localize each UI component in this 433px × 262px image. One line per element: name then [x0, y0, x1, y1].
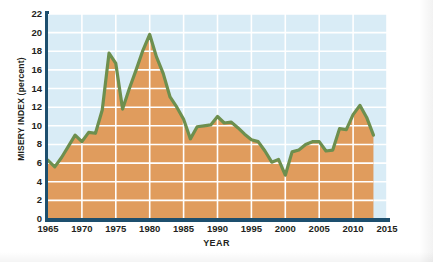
x-axis-spine	[45, 218, 390, 222]
x-axis-title: YEAR	[0, 238, 433, 248]
y-tick-label: 20	[2, 28, 42, 38]
page-edge-shading-right	[419, 0, 433, 262]
chart-plot-svg	[48, 14, 387, 219]
page-edge-shading-bottom	[0, 252, 433, 262]
y-tick-label: 2	[2, 195, 42, 205]
y-tick-label: 4	[2, 177, 42, 187]
y-tick-label: 22	[2, 9, 42, 19]
x-tick-label: 2015	[365, 223, 409, 234]
misery-index-chart-figure: 0246810121416182022 MISERY INDEX (percen…	[0, 0, 433, 262]
y-axis-title: MISERY INDEX (percent)	[16, 44, 26, 174]
plot-area	[48, 14, 387, 219]
